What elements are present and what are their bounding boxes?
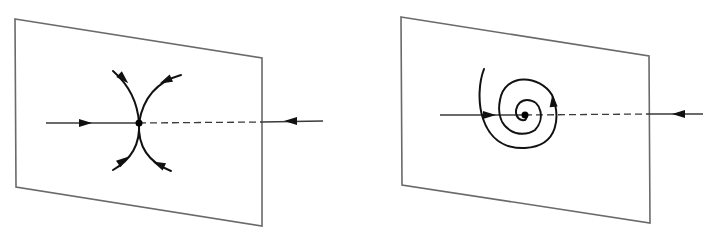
arrow-right-icon xyxy=(79,119,92,127)
diagram-canvas xyxy=(0,0,713,251)
flow-arrow-icon xyxy=(116,71,131,86)
flow-arrow-icon xyxy=(548,94,557,108)
saddle-panel-fixed-point xyxy=(136,120,143,127)
arrow-left-icon xyxy=(284,117,297,125)
focus-panel-hidden-axis xyxy=(525,114,649,115)
focus-panel-fixed-point xyxy=(522,112,529,119)
saddle-panel-hidden-axis xyxy=(139,122,262,123)
phase-portrait-figure xyxy=(0,0,713,251)
focus-panel-trajectory xyxy=(480,69,557,148)
arrow-left-icon xyxy=(672,110,685,118)
saddle-panel-trajectory xyxy=(113,71,139,170)
arrow-right-icon xyxy=(483,111,496,119)
